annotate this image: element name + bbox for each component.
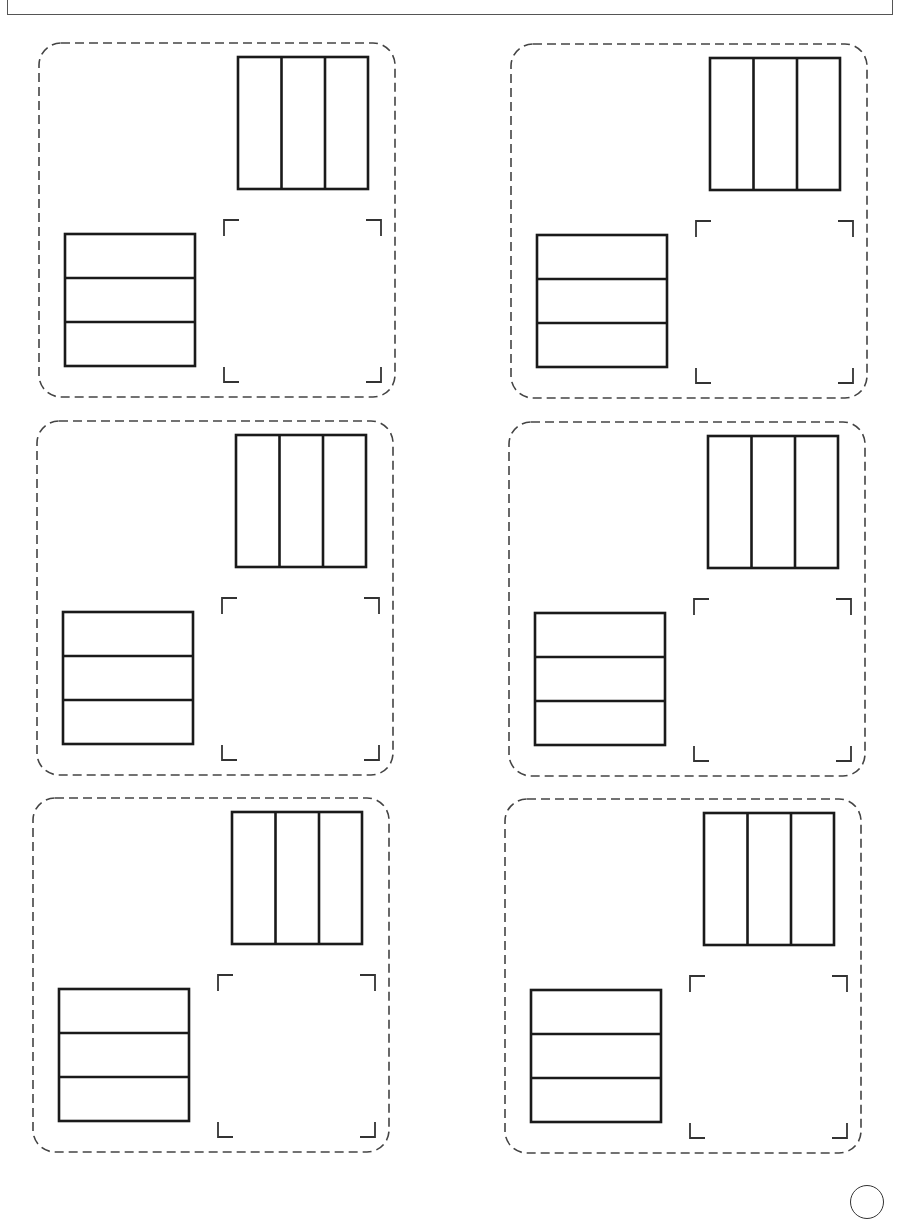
card-dashed-border [33, 798, 389, 1152]
card-dashed-border [509, 422, 865, 776]
card-dashed-border [511, 44, 867, 398]
vertical-area-model [236, 435, 366, 567]
card-drawing [36, 420, 394, 776]
fraction-card-row-1-left [38, 42, 396, 398]
vertical-area-model [232, 812, 362, 944]
vertical-area-model [708, 436, 838, 568]
card-drawing [38, 42, 396, 398]
card-dashed-border [505, 799, 861, 1153]
vertical-area-model [710, 58, 840, 190]
card-drawing [32, 797, 390, 1153]
fraction-card-row-2-right [508, 421, 866, 777]
answer-box-brackets [694, 599, 851, 761]
answer-box-brackets [218, 975, 375, 1137]
header-box [7, 0, 893, 15]
fraction-card-row-3-right [504, 798, 862, 1154]
card-drawing [508, 421, 866, 777]
card-drawing [504, 798, 862, 1154]
fraction-card-row-3-left [32, 797, 390, 1153]
answer-box-brackets [224, 220, 381, 382]
page-number-badge [850, 1185, 884, 1219]
answer-box-brackets [222, 598, 379, 760]
horizontal-area-model [65, 234, 195, 366]
card-drawing [510, 43, 868, 399]
horizontal-area-model [537, 235, 667, 367]
fraction-card-row-1-right [510, 43, 868, 399]
vertical-area-model [238, 57, 368, 189]
fraction-card-row-2-left [36, 420, 394, 776]
answer-box-brackets [696, 221, 853, 383]
card-dashed-border [37, 421, 393, 775]
answer-box-brackets [690, 976, 847, 1138]
horizontal-area-model [531, 990, 661, 1122]
horizontal-area-model [59, 989, 189, 1121]
card-dashed-border [39, 43, 395, 397]
vertical-area-model [704, 813, 834, 945]
horizontal-area-model [63, 612, 193, 744]
horizontal-area-model [535, 613, 665, 745]
